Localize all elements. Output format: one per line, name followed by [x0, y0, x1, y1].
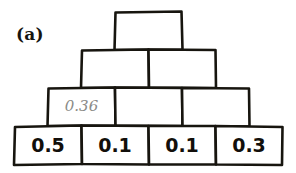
number-pyramid-diagram: 0.36 0.5 0.1 0.1 0.3: [0, 0, 296, 173]
pyramid-row-3: 0.5 0.1 0.1 0.3: [14, 126, 283, 166]
pyramid-row-1: [81, 50, 216, 89]
pyramid-cell-value-r3c2: 0.1: [165, 134, 199, 156]
pyramid-row-2: 0.36: [48, 88, 250, 127]
pyramid-cell-r1c1[interactable]: [149, 50, 217, 89]
pyramid-cell-value-r3c1: 0.1: [98, 134, 132, 156]
pyramid-cell-r1c0[interactable]: [81, 50, 149, 89]
pyramid-cell-value-r2c0: 0.36: [65, 97, 99, 115]
figure-root: (a) 0.36 0.5 0.1: [0, 0, 296, 173]
pyramid-cell-value-r3c3: 0.3: [232, 134, 266, 156]
pyramid-cell-value-r3c0: 0.5: [31, 134, 65, 156]
pyramid-cell-r0c0[interactable]: [115, 12, 183, 51]
pyramid-cell-r2c2[interactable]: [182, 88, 250, 127]
pyramid-cell-r2c1[interactable]: [115, 88, 183, 127]
pyramid-row-0: [115, 12, 183, 51]
